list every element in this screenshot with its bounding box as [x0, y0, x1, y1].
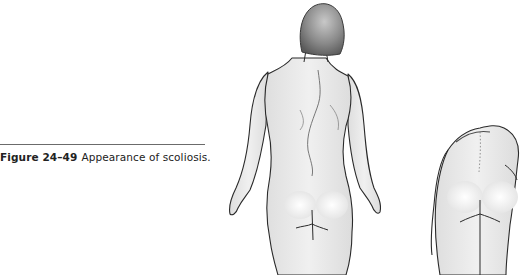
- bend-buttocks-right: [482, 181, 518, 213]
- scoliosis-illustration: [0, 0, 526, 275]
- standing-figure: [229, 58, 380, 275]
- buttocks-highlight-left: [284, 191, 316, 219]
- hair: [300, 4, 344, 56]
- buttocks-highlight-right: [316, 191, 348, 219]
- bend-buttocks-left: [447, 181, 483, 213]
